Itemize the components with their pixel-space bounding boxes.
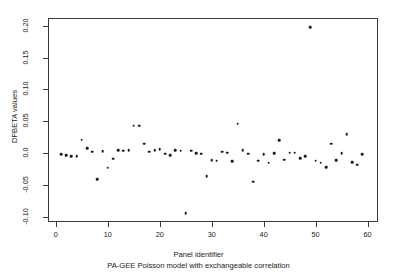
data-point	[117, 149, 120, 152]
x-tick-mark	[212, 222, 213, 227]
data-point	[236, 123, 239, 126]
data-point	[70, 155, 73, 158]
data-point	[158, 148, 161, 151]
data-point	[86, 147, 89, 150]
data-point	[91, 151, 94, 154]
data-point	[122, 149, 125, 152]
data-point	[325, 166, 328, 169]
plot-area	[48, 18, 378, 222]
x-axis-label: Panel identifier	[0, 250, 397, 259]
data-point	[153, 149, 156, 152]
data-point	[283, 158, 286, 161]
data-point	[75, 155, 78, 158]
data-point	[216, 160, 219, 163]
x-tick-label: 0	[54, 230, 58, 239]
data-point	[346, 133, 349, 136]
data-point	[132, 124, 135, 127]
x-tick-label: 10	[104, 230, 112, 239]
x-tick-mark	[56, 222, 57, 227]
data-point	[96, 178, 99, 181]
data-point	[226, 151, 229, 154]
y-tick-label: 0.0	[21, 140, 30, 166]
y-tick-mark	[43, 26, 48, 27]
x-tick-mark	[160, 222, 161, 227]
x-tick-label: 20	[156, 230, 164, 239]
data-point	[309, 26, 312, 29]
data-point	[356, 163, 359, 166]
data-point	[148, 151, 151, 154]
data-point	[268, 161, 271, 164]
data-point	[106, 167, 109, 170]
x-tick-label: 30	[208, 230, 216, 239]
data-point	[242, 149, 245, 152]
data-point	[340, 152, 343, 155]
data-point	[112, 158, 115, 161]
data-point	[221, 151, 224, 154]
x-tick-mark	[316, 222, 317, 227]
y-tick-label: -0.05	[21, 172, 30, 198]
data-point	[351, 161, 354, 164]
y-tick-label: 0.05	[21, 108, 30, 134]
data-point	[127, 149, 130, 152]
data-point	[304, 155, 307, 158]
y-tick-mark	[43, 153, 48, 154]
data-point	[184, 212, 187, 215]
y-axis-label: DFBETA values	[10, 82, 19, 152]
data-point	[252, 181, 255, 184]
y-tick-mark	[43, 217, 48, 218]
x-tick-mark	[264, 222, 265, 227]
data-point	[65, 154, 68, 157]
data-point	[314, 160, 317, 163]
data-point	[143, 142, 146, 145]
data-point	[247, 152, 250, 155]
data-point	[294, 151, 297, 154]
y-tick-mark	[43, 58, 48, 59]
data-point	[190, 149, 193, 152]
data-point	[200, 152, 203, 155]
y-tick-mark	[43, 89, 48, 90]
data-point	[138, 124, 141, 127]
y-tick-mark	[43, 185, 48, 186]
data-point	[361, 153, 364, 156]
data-point	[60, 153, 63, 156]
x-tick-mark	[368, 222, 369, 227]
data-point	[164, 152, 167, 155]
data-point	[330, 142, 333, 145]
y-tick-label: -0.10	[21, 203, 30, 229]
scatter-plot-figure: 0.200.150.100.050.0-0.05-0.10 0102030405…	[0, 0, 397, 280]
data-point	[257, 160, 260, 163]
data-point	[262, 153, 265, 156]
data-point	[205, 175, 208, 178]
data-point	[320, 161, 323, 164]
data-point	[288, 151, 291, 154]
data-point	[278, 139, 281, 142]
data-point	[210, 159, 213, 162]
x-tick-label: 50	[312, 230, 320, 239]
plot-subtitle: PA-GEE Poisson model with exchangeable c…	[0, 261, 397, 270]
x-tick-label: 40	[260, 230, 268, 239]
data-point	[101, 150, 104, 153]
data-point	[195, 152, 198, 155]
data-point	[174, 149, 177, 152]
data-point	[335, 159, 338, 162]
y-tick-label: 0.15	[21, 44, 30, 70]
y-tick-label: 0.10	[21, 76, 30, 102]
data-point	[179, 149, 182, 152]
data-point	[231, 160, 234, 163]
data-point	[169, 154, 172, 157]
data-point	[80, 138, 83, 141]
x-tick-mark	[108, 222, 109, 227]
x-tick-label: 60	[364, 230, 372, 239]
y-tick-mark	[43, 121, 48, 122]
data-point	[299, 157, 302, 160]
data-point	[273, 152, 276, 155]
y-tick-label: 0.20	[21, 12, 30, 38]
